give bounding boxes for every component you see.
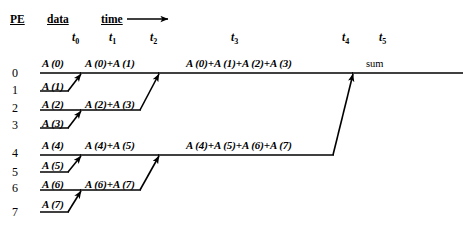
- time-step-t5: t5: [379, 31, 386, 43]
- header-pe: PE: [10, 13, 25, 25]
- pe-row-5: 5: [8, 165, 22, 180]
- time-step-t2: t2: [150, 31, 157, 43]
- arrow-pe1-to-pe0: [68, 74, 81, 91]
- time-step-t2-index: 2: [153, 37, 157, 46]
- data-label-a5: A (5): [42, 159, 64, 171]
- time-step-t1-index: 1: [112, 37, 116, 46]
- pe-row-7: 7: [8, 205, 22, 220]
- time-step-t1: t1: [109, 31, 116, 43]
- arrow-pe7-to-pe6: [68, 191, 81, 212]
- arrow-pe2-to-pe0: [140, 74, 159, 110]
- arrow-pe6-to-pe4: [140, 156, 159, 190]
- reduction-diagram: PE data time t0 t1 t2 t3 t4 t5 0 1 2 3 4…: [0, 0, 463, 236]
- partial-sum-a0a1: A (0)+A (1): [85, 57, 135, 69]
- header-time: time: [101, 13, 123, 25]
- pe-row-4: 4: [8, 146, 22, 161]
- time-step-t4-index: 4: [345, 37, 349, 46]
- data-label-a3: A (3): [42, 117, 64, 129]
- time-step-t4: t4: [342, 31, 349, 43]
- pe-row-6: 6: [8, 181, 22, 196]
- header-data: data: [47, 13, 69, 25]
- arrow-pe3-to-pe2: [68, 111, 81, 128]
- partial-sum-a4a5: A (4)+A (5): [85, 139, 135, 151]
- final-sum-label: sum: [366, 58, 384, 69]
- pe-row-1: 1: [8, 83, 22, 98]
- time-step-t5-index: 5: [382, 37, 386, 46]
- partial-sum-a2a3: A (2)+A (3): [85, 98, 135, 110]
- partial-sum-a0-a3: A (0)+A (1)+A (2)+A (3): [186, 57, 292, 69]
- data-label-a0: A (0): [42, 57, 64, 69]
- time-step-t3: t3: [231, 31, 238, 43]
- pe-row-2: 2: [8, 101, 22, 116]
- data-label-a7: A (7): [42, 198, 64, 210]
- data-label-a1: A (1): [42, 80, 64, 92]
- arrow-pe4-to-pe0: [333, 74, 353, 155]
- arrow-pe5-to-pe4: [68, 156, 81, 172]
- data-label-a2: A (2): [42, 98, 64, 110]
- data-label-a4: A (4): [42, 139, 64, 151]
- partial-sum-a6a7: A (6)+A (7): [85, 178, 135, 190]
- pe-row-0: 0: [8, 66, 22, 81]
- data-label-a6: A (6): [42, 178, 64, 190]
- time-step-t0-index: 0: [75, 37, 79, 46]
- pe-row-3: 3: [8, 118, 22, 133]
- time-step-t0: t0: [72, 31, 79, 43]
- time-step-t3-index: 3: [234, 37, 238, 46]
- partial-sum-a4-a7: A (4)+A (5)+A (6)+A (7): [186, 139, 292, 151]
